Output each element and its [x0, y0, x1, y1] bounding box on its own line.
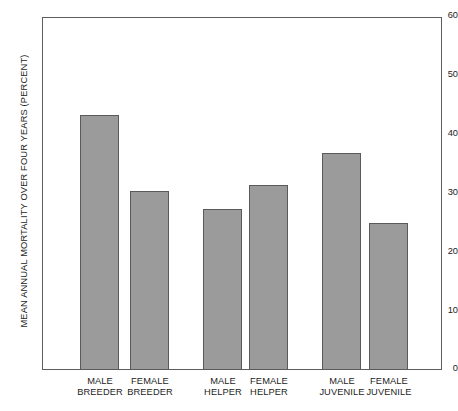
x-tick-label-female-helper: FEMALE HELPER	[229, 376, 309, 398]
bar-male-juvenile	[322, 153, 361, 370]
x-tick-label-female-breeder: FEMALE BREEDER	[110, 376, 190, 398]
x-tick-label-female-juvenile: FEMALE JUVENILE	[349, 376, 429, 398]
bar-chart-figure: MEAN ANNUAL MORTALITY OVER FOUR YEARS (P…	[0, 0, 458, 411]
y-axis-title: MEAN ANNUAL MORTALITY OVER FOUR YEARS (P…	[19, 11, 29, 371]
bar-female-helper	[249, 185, 288, 370]
bar-female-breeder	[130, 191, 169, 370]
bar-female-juvenile	[369, 223, 408, 370]
bar-male-breeder	[80, 115, 119, 370]
bar-male-helper	[203, 209, 242, 370]
